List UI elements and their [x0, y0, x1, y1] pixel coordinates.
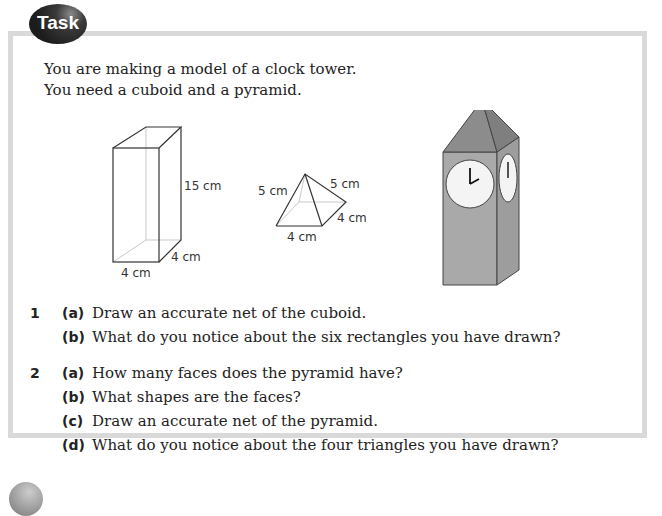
question-2a-text: How many faces does the pyramid have?	[92, 364, 403, 382]
question-1a-label: (a)	[62, 301, 92, 325]
question-1a: 1 (a)Draw an accurate net of the cuboid.	[62, 301, 561, 325]
intro-text: You are making a model of a clock tower.…	[44, 59, 357, 101]
question-2c: (c)Draw an accurate net of the pyramid.	[62, 409, 559, 433]
intro-line-2: You need a cuboid and a pyramid.	[44, 80, 357, 101]
pyramid-depth-label: 4 cm	[337, 211, 367, 225]
question-1: 1 (a)Draw an accurate net of the cuboid.…	[44, 301, 561, 349]
question-1-number: 1	[30, 301, 40, 325]
cuboid-depth-label: 4 cm	[171, 250, 201, 264]
cuboid-figure	[113, 127, 181, 262]
question-2d-text: What do you notice about the four triang…	[92, 436, 559, 454]
pyramid-slant-right-label: 5 cm	[330, 177, 360, 191]
question-2d: (d)What do you notice about the four tri…	[62, 433, 559, 457]
question-2d-label: (d)	[62, 433, 92, 457]
question-2a: 2 (a)How many faces does the pyramid hav…	[62, 361, 559, 385]
question-2a-label: (a)	[62, 361, 92, 385]
question-2b: (b)What shapes are the faces?	[62, 385, 559, 409]
pyramid-base-label: 4 cm	[287, 230, 317, 244]
figures: 15 cm 4 cm 4 cm 5 cm 5 cm 4 cm 4 cm	[0, 110, 662, 295]
question-2c-text: Draw an accurate net of the pyramid.	[92, 412, 378, 430]
task-badge: Task	[29, 4, 87, 44]
question-1b: (b)What do you notice about the six rect…	[62, 325, 561, 349]
intro-line-1: You are making a model of a clock tower.	[44, 59, 357, 80]
question-1b-text: What do you notice about the six rectang…	[92, 328, 561, 346]
clock-tower-figure	[443, 110, 519, 285]
question-2b-text: What shapes are the faces?	[92, 388, 301, 406]
task-badge-label: Task	[29, 12, 87, 34]
question-1b-label: (b)	[62, 325, 92, 349]
pyramid-slant-left-label: 5 cm	[258, 184, 288, 198]
cuboid-height-label: 15 cm	[184, 179, 221, 193]
question-2: 2 (a)How many faces does the pyramid hav…	[44, 361, 559, 457]
question-2c-label: (c)	[62, 409, 92, 433]
cuboid-width-label: 4 cm	[121, 266, 151, 280]
question-2b-label: (b)	[62, 385, 92, 409]
question-1a-text: Draw an accurate net of the cuboid.	[92, 304, 366, 322]
next-section-badge	[9, 482, 43, 516]
question-2-number: 2	[30, 361, 40, 385]
